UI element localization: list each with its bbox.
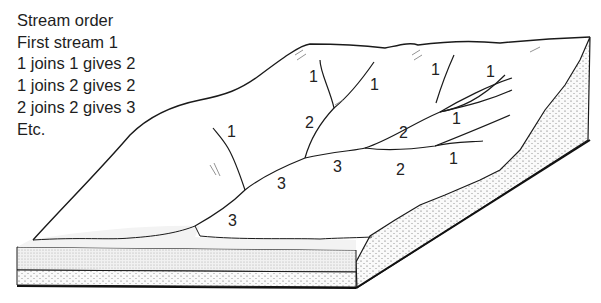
- legend-title: Stream order: [17, 10, 135, 32]
- stream-order-label: 3: [277, 175, 286, 192]
- legend-line: 2 joins 2 gives 3: [17, 97, 135, 119]
- front-layer-top: [17, 247, 356, 272]
- front-layer-bottom: [17, 270, 356, 287]
- stream-order-label: 3: [228, 212, 237, 229]
- legend-line: Etc.: [17, 119, 135, 141]
- legend-line: First stream 1: [17, 32, 135, 54]
- stream-order-label: 3: [333, 158, 342, 175]
- stream-order-label: 1: [431, 61, 440, 78]
- stream-order-label: 1: [486, 63, 495, 80]
- stream-order-label: 1: [309, 68, 318, 85]
- stream-order-label: 1: [370, 76, 379, 93]
- stream-order-label: 2: [305, 114, 314, 131]
- stream-order-label: 2: [396, 161, 405, 178]
- legend-line: 1 joins 2 gives 2: [17, 75, 135, 97]
- stream-order-label: 1: [227, 123, 236, 140]
- stream-order-label: 2: [399, 124, 408, 141]
- stream-order-label: 1: [449, 150, 458, 167]
- stream-order-legend: Stream order First stream 1 1 joins 1 gi…: [17, 10, 135, 140]
- stream-order-diagram: 1111122132133 Stream order First stream …: [0, 0, 601, 303]
- legend-line: 1 joins 1 gives 2: [17, 53, 135, 75]
- stream-order-label: 1: [452, 110, 461, 127]
